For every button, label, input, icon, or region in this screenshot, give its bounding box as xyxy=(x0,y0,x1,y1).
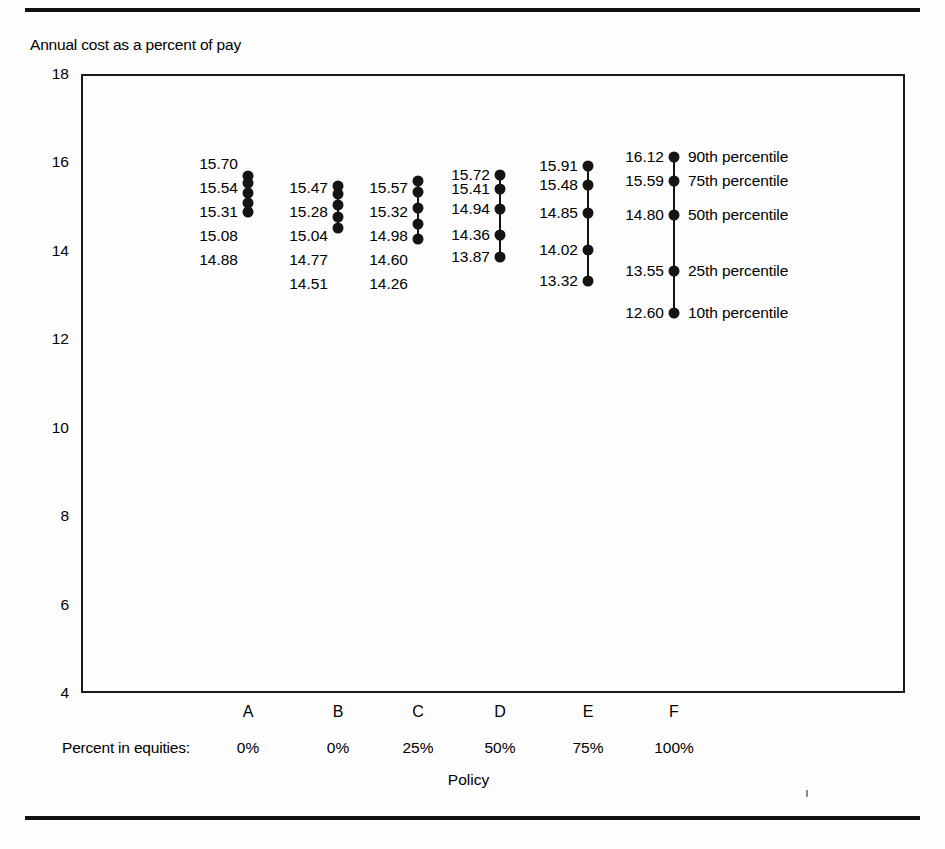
equities-value: 100% xyxy=(639,739,709,757)
data-point-value-label: 15.59 xyxy=(602,172,664,190)
figure-page: Annual cost as a percent of pay 18161412… xyxy=(0,0,945,849)
data-point-value-label: 16.12 xyxy=(602,148,664,166)
data-point-marker[interactable] xyxy=(413,219,424,230)
y-tick-label: 10 xyxy=(5,419,69,437)
data-point-value-label: 14.85 xyxy=(516,204,578,222)
data-point-marker[interactable] xyxy=(583,161,594,172)
data-point-value-label: 15.70 xyxy=(176,155,238,173)
data-point-value-label: 15.32 xyxy=(346,203,408,221)
data-point-value-label: 15.04 xyxy=(266,227,328,245)
data-point-marker[interactable] xyxy=(243,206,254,217)
data-point-marker[interactable] xyxy=(333,211,344,222)
x-tick-label: B xyxy=(308,703,368,721)
data-point-marker[interactable] xyxy=(495,251,506,262)
data-point-value-label: 14.88 xyxy=(176,251,238,269)
data-point-value-label: 13.55 xyxy=(602,262,664,280)
data-point-marker[interactable] xyxy=(495,229,506,240)
data-point-value-label: 14.51 xyxy=(266,275,328,293)
page-speck xyxy=(806,790,808,797)
data-point-value-label: 14.94 xyxy=(428,200,490,218)
equities-value: 25% xyxy=(383,739,453,757)
data-point-marker[interactable] xyxy=(669,175,680,186)
data-point-marker[interactable] xyxy=(413,234,424,245)
data-point-marker[interactable] xyxy=(669,307,680,318)
legend-item-label: 75th percentile xyxy=(688,172,788,190)
equities-caption: Percent in equities: xyxy=(62,739,190,757)
data-point-marker[interactable] xyxy=(669,210,680,221)
data-point-marker[interactable] xyxy=(333,199,344,210)
data-point-value-label: 15.91 xyxy=(516,157,578,175)
legend-item-label: 50th percentile xyxy=(688,206,788,224)
legend-item-label: 90th percentile xyxy=(688,148,788,166)
x-tick-label: F xyxy=(644,703,704,721)
data-point-marker[interactable] xyxy=(583,180,594,191)
x-tick-label: A xyxy=(218,703,278,721)
data-point-value-label: 13.32 xyxy=(516,272,578,290)
data-point-marker[interactable] xyxy=(333,189,344,200)
bottom-rule xyxy=(25,816,920,820)
data-point-value-label: 14.60 xyxy=(346,251,408,269)
data-point-value-label: 14.26 xyxy=(346,275,408,293)
data-point-marker[interactable] xyxy=(669,265,680,276)
data-point-marker[interactable] xyxy=(583,275,594,286)
data-point-value-label: 15.41 xyxy=(428,180,490,198)
data-point-value-label: 14.80 xyxy=(602,206,664,224)
data-point-value-label: 15.47 xyxy=(266,179,328,197)
data-point-value-label: 14.36 xyxy=(428,226,490,244)
data-point-marker[interactable] xyxy=(583,208,594,219)
x-tick-label: E xyxy=(558,703,618,721)
equities-value: 0% xyxy=(213,739,283,757)
data-point-marker[interactable] xyxy=(669,152,680,163)
data-point-marker[interactable] xyxy=(495,204,506,215)
x-axis-title: Policy xyxy=(0,771,945,789)
data-point-value-label: 13.87 xyxy=(428,248,490,266)
data-point-marker[interactable] xyxy=(495,183,506,194)
data-point-value-label: 14.77 xyxy=(266,251,328,269)
data-point-marker[interactable] xyxy=(413,176,424,187)
data-point-marker[interactable] xyxy=(413,202,424,213)
equities-value: 0% xyxy=(303,739,373,757)
y-tick-label: 6 xyxy=(5,596,69,614)
equities-value: 50% xyxy=(465,739,535,757)
legend-item-label: 25th percentile xyxy=(688,262,788,280)
data-point-value-label: 15.08 xyxy=(176,227,238,245)
x-tick-label: D xyxy=(470,703,530,721)
y-tick-label: 4 xyxy=(5,684,69,702)
data-point-marker[interactable] xyxy=(333,223,344,234)
data-point-value-label: 15.31 xyxy=(176,203,238,221)
data-point-value-label: 12.60 xyxy=(602,304,664,322)
data-point-value-label: 15.54 xyxy=(176,179,238,197)
page-title: Annual cost as a percent of pay xyxy=(30,36,241,54)
y-tick-label: 8 xyxy=(5,507,69,525)
data-point-value-label: 15.48 xyxy=(516,176,578,194)
data-point-value-label: 15.28 xyxy=(266,203,328,221)
x-axis-title-text: Policy xyxy=(448,771,489,789)
y-tick-label: 18 xyxy=(5,65,69,83)
y-tick-label: 12 xyxy=(5,330,69,348)
data-point-marker[interactable] xyxy=(413,187,424,198)
y-tick-label: 16 xyxy=(5,153,69,171)
data-point-marker[interactable] xyxy=(583,244,594,255)
data-point-value-label: 14.98 xyxy=(346,227,408,245)
x-tick-label: C xyxy=(388,703,448,721)
legend-item-label: 10th percentile xyxy=(688,304,788,322)
data-point-value-label: 14.02 xyxy=(516,241,578,259)
y-tick-label: 14 xyxy=(5,242,69,260)
data-point-marker[interactable] xyxy=(495,169,506,180)
top-rule xyxy=(25,8,920,12)
equities-value: 75% xyxy=(553,739,623,757)
data-point-value-label: 15.57 xyxy=(346,179,408,197)
